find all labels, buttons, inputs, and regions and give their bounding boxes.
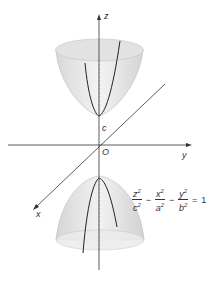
term-y: y2 b2 — [178, 186, 188, 213]
z-axis-label: z — [104, 12, 109, 21]
equation: z2 c2 − x2 a2 − y2 b2 = 1 — [130, 186, 208, 213]
y-axis-label: y — [182, 151, 187, 160]
equation-rhs: 1 — [201, 195, 206, 205]
term-x: x2 a2 — [155, 186, 165, 213]
upper-sheet — [56, 39, 144, 116]
hyperboloid-diagram — [0, 0, 222, 282]
minus-operator: − — [146, 195, 151, 205]
x-axis-label: x — [36, 210, 41, 219]
vertex-c-label: c — [102, 124, 107, 133]
minus-operator: − — [169, 195, 174, 205]
origin-label: O — [102, 148, 109, 157]
equals-sign: = — [192, 195, 197, 205]
term-z: z2 c2 — [132, 186, 142, 213]
